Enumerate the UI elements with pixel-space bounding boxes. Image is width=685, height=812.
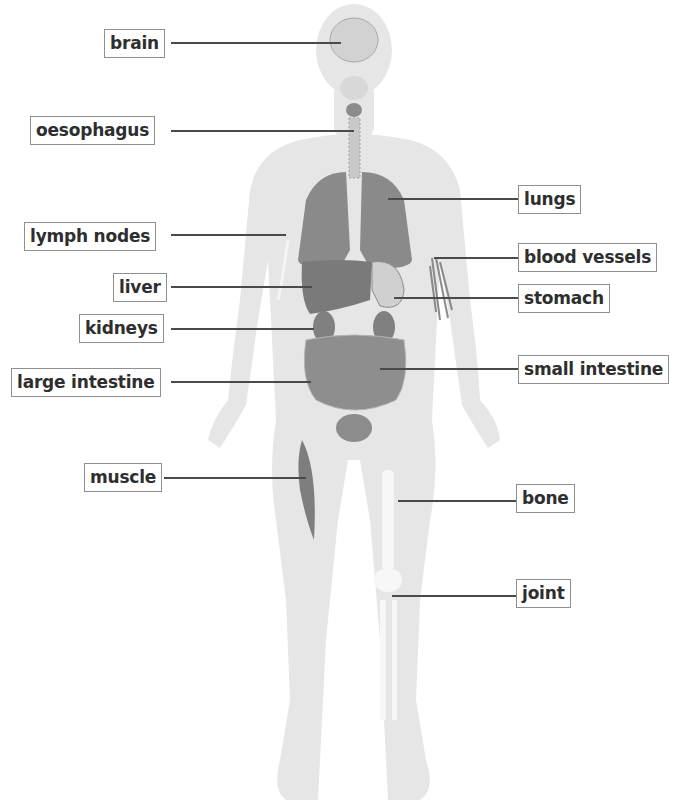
intestines bbox=[304, 335, 405, 410]
bladder bbox=[336, 414, 372, 442]
label-large-intestine: large intestine bbox=[11, 368, 161, 397]
stomach-pointer-line bbox=[394, 297, 518, 299]
knee-joint bbox=[374, 568, 402, 592]
brain-organ bbox=[330, 18, 378, 62]
brain-pointer-line bbox=[171, 42, 341, 44]
label-joint: joint bbox=[516, 579, 571, 608]
liver-pointer-line bbox=[171, 286, 312, 288]
oesophagus-organ bbox=[349, 118, 360, 178]
label-stomach: stomach bbox=[518, 284, 610, 313]
label-muscle: muscle bbox=[84, 463, 162, 492]
large-intestine-pointer-line bbox=[171, 381, 311, 383]
label-lungs: lungs bbox=[518, 185, 581, 214]
kidneys-pointer-line bbox=[171, 328, 314, 330]
blood-vessels-pointer-line bbox=[434, 257, 518, 259]
label-lymph-nodes: lymph nodes bbox=[24, 222, 156, 251]
body-diagram: brain oesophagus lymph nodes liver kidne… bbox=[0, 0, 685, 812]
muscle-pointer-line bbox=[164, 477, 306, 479]
lymph-nodes-pointer-line bbox=[171, 234, 286, 236]
femur-bone bbox=[382, 470, 394, 570]
joint-pointer-line bbox=[392, 595, 516, 597]
lungs-pointer-line bbox=[388, 198, 518, 200]
label-small-intestine: small intestine bbox=[518, 355, 669, 384]
label-blood-vessels: blood vessels bbox=[518, 243, 657, 272]
label-kidneys: kidneys bbox=[79, 314, 164, 343]
bone-pointer-line bbox=[398, 500, 516, 502]
oesophagus-pointer-line bbox=[171, 130, 354, 132]
label-liver: liver bbox=[113, 273, 167, 302]
small-intestine-pointer-line bbox=[380, 368, 518, 370]
label-brain: brain bbox=[104, 29, 165, 58]
label-oesophagus: oesophagus bbox=[30, 116, 155, 145]
label-bone: bone bbox=[516, 484, 575, 513]
